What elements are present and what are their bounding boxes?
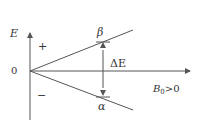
- delta-e-arrowhead-down: [100, 90, 106, 96]
- beta-label: β: [96, 26, 103, 39]
- alpha-label: α: [98, 100, 106, 113]
- axis-y-label: E: [9, 27, 18, 40]
- plus-label: +: [38, 40, 47, 53]
- origin-label: 0: [11, 65, 17, 76]
- field-axis-label: B0>0: [152, 83, 180, 96]
- delta-e-label: ΔE: [110, 57, 126, 70]
- zeeman-splitting-diagram: E 0 + − β α ΔE B0>0: [0, 0, 203, 126]
- minus-label: −: [37, 89, 46, 102]
